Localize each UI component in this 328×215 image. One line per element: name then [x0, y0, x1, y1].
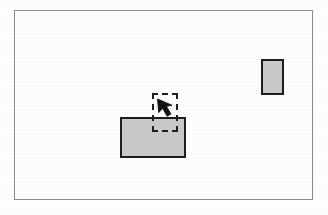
target-rectangle[interactable] [261, 59, 284, 95]
arrow-pointer-icon[interactable] [152, 94, 182, 124]
figure-canvas: Dragging a rectangle toward a target pos… [0, 0, 328, 215]
